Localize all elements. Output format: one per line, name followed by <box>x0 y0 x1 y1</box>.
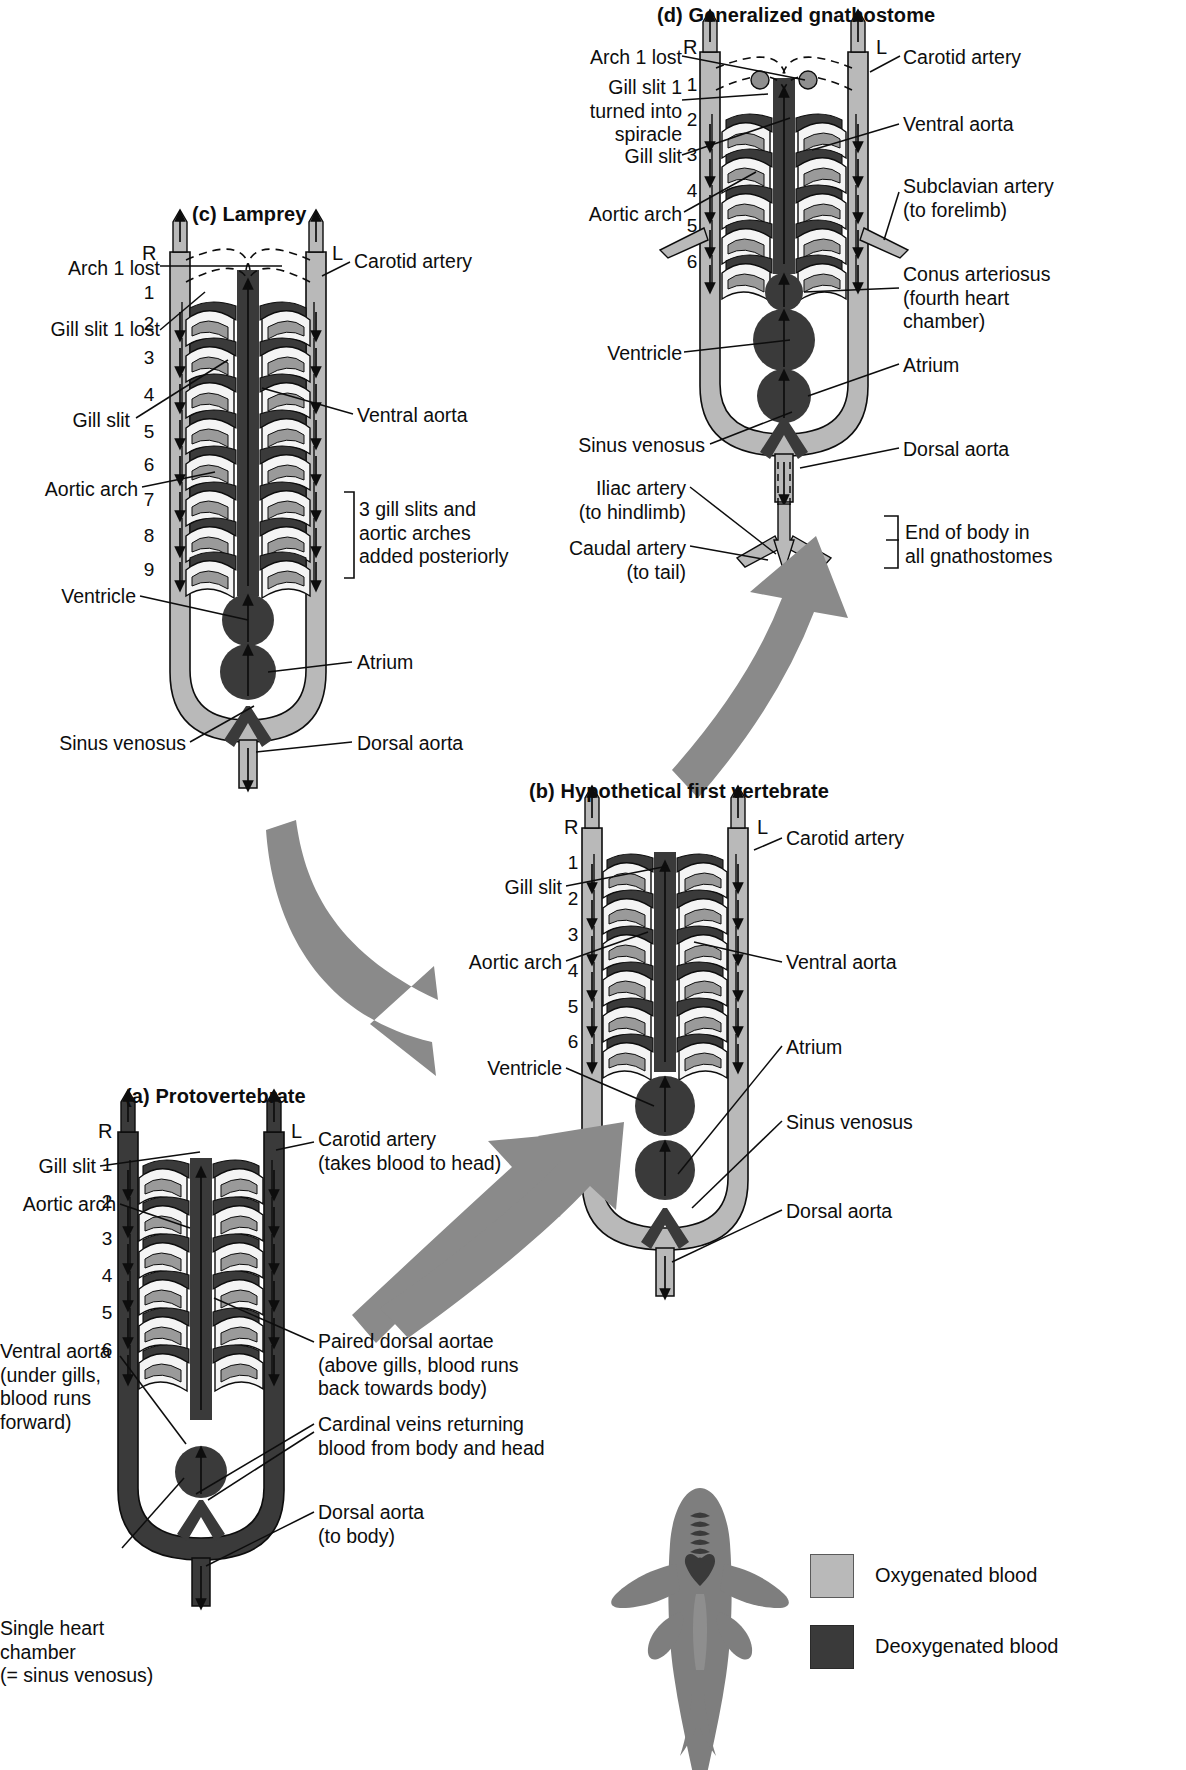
panel-c-label-ventricle: Ventricle <box>36 585 136 609</box>
panel-d-title: (d) Generalized gnathostome <box>657 4 935 27</box>
legend-label-deoxygenated: Deoxygenated blood <box>875 1634 1058 1658</box>
panel-a-side-left: L <box>291 1121 302 1141</box>
panel-a-arch-num-5: 5 <box>98 1303 116 1322</box>
panel-b-leader-carotid <box>754 838 782 850</box>
panel-c-arch-num-8: 8 <box>140 526 158 545</box>
panel-c-label-gill-slit: Gill slit <box>30 409 130 433</box>
panel-c-label-added-posteriorly: 3 gill slits and aortic arches added pos… <box>359 498 509 569</box>
panel-b-label-sinus-venosus: Sinus venosus <box>786 1111 913 1135</box>
panel-b-side-left: L <box>757 817 768 837</box>
panel-d-label-dorsal-aorta: Dorsal aorta <box>903 438 1009 462</box>
panel-b-arch-num-6: 6 <box>564 1032 582 1051</box>
panel-c-arch-num-2: 2 <box>140 314 158 333</box>
panel-c-arch-num-3: 3 <box>140 348 158 367</box>
panel-c-label-atrium: Atrium <box>357 651 413 675</box>
panel-c-bracket <box>344 492 354 578</box>
panel-a-arch-num-6: 6 <box>98 1340 116 1359</box>
panel-d-arch-num-2: 2 <box>683 110 701 129</box>
panel-d-label-carotid-artery: Carotid artery <box>903 46 1021 70</box>
panel-d-label-atrium: Atrium <box>903 354 959 378</box>
panel-d-arch-num-3: 3 <box>683 145 701 164</box>
panel-b-arch-num-3: 3 <box>564 925 582 944</box>
evolution-arrow-b-to-c <box>266 820 438 1076</box>
panel-c-arch-num-6: 6 <box>140 455 158 474</box>
panel-a-arch-num-1: 1 <box>98 1155 116 1174</box>
panel-d-label-gill-slit: Gill slit <box>580 145 682 169</box>
panel-d-label-aortic-arch: Aortic arch <box>560 203 682 227</box>
panel-c-side-left: L <box>332 243 343 263</box>
panel-d-label-caudal-artery: Caudal artery (to tail) <box>556 537 686 584</box>
panel-c-lost-arch-dashed <box>186 249 250 270</box>
panel-d-label-ventral-aorta: Ventral aorta <box>903 113 1014 137</box>
legend-swatch-deoxygenated <box>810 1625 854 1669</box>
panel-b-label-aortic-arch: Aortic arch <box>440 951 562 975</box>
panel-a-sinus-venosus <box>177 1500 225 1541</box>
panel-d-leader-subclavian <box>884 192 899 240</box>
panel-d-label-iliac-artery: Iliac artery (to hindlimb) <box>556 477 686 524</box>
panel-b-side-right: R <box>564 817 578 837</box>
legend-swatch-oxygenated <box>810 1554 854 1598</box>
panel-c-lost-arch-dashed <box>246 249 310 270</box>
panel-c-label-ventral-aorta: Ventral aorta <box>357 404 468 428</box>
panel-c-label-gill-slit-1-lost: Gill slit 1 lost <box>0 318 160 342</box>
panel-b-label-gill-slit: Gill slit <box>460 876 562 900</box>
panel-d-side-left: L <box>876 37 887 57</box>
panel-d-label-subclavian-artery: Subclavian artery (to forelimb) <box>903 175 1054 222</box>
panel-a-label-dorsal-aorta: Dorsal aorta (to body) <box>318 1501 424 1548</box>
panel-c-label-dorsal-aorta: Dorsal aorta <box>357 732 463 756</box>
panel-a-arch-num-3: 3 <box>98 1229 116 1248</box>
panel-d-lost-arch-dashed <box>782 57 852 78</box>
panel-a-label-single-heart-chamber: Single heart chamber (= sinus venosus) <box>0 1617 155 1688</box>
panel-b-title: (b) Hypothetical first vertebrate <box>529 780 829 803</box>
panel-d-arch-num-1: 1 <box>683 75 701 94</box>
panel-d-label-conus-arteriosus: Conus arteriosus (fourth heart chamber) <box>903 263 1050 334</box>
panel-d-leader-iliac <box>690 487 776 554</box>
panel-a-label-paired-dorsal-aortae: Paired dorsal aortae (above gills, blood… <box>318 1330 519 1401</box>
panel-a-arch-num-2: 2 <box>98 1192 116 1211</box>
panel-b-label-atrium: Atrium <box>786 1036 842 1060</box>
panel-d-end-of-body-bracket <box>884 516 898 568</box>
fish-inset <box>611 1488 789 1770</box>
panel-d-label-end-of-body: End of body in all gnathostomes <box>905 521 1052 568</box>
panel-b-label-dorsal-aorta: Dorsal aorta <box>786 1200 892 1224</box>
panel-c-arch-num-9: 9 <box>140 560 158 579</box>
panel-c-label-carotid-artery: Carotid artery <box>354 250 472 274</box>
fish-part <box>693 1594 707 1670</box>
panel-a-title: (a) Protovertebrate <box>125 1085 306 1108</box>
panel-a-label-carotid-artery: Carotid artery (takes blood to head) <box>318 1128 501 1175</box>
panel-c-leader-dorsalaorta <box>256 742 352 752</box>
panel-a-label-cardinal-veins: Cardinal veins returning blood from body… <box>318 1413 545 1460</box>
panel-b-arch-num-2: 2 <box>564 889 582 908</box>
evolution-arrow-b-to-d <box>672 536 848 798</box>
panel-c-label-aortic-arch: Aortic arch <box>18 478 138 502</box>
panel-c-arch-num-7: 7 <box>140 490 158 509</box>
panel-b-label-carotid-artery: Carotid artery <box>786 827 904 851</box>
panel-d-side-right: R <box>683 37 697 57</box>
panel-b-arch-num-4: 4 <box>564 961 582 980</box>
panel-d-label-arch-1-lost: Arch 1 lost <box>560 46 682 70</box>
panel-d-arch-num-5: 5 <box>683 216 701 235</box>
panel-c-label-arch-1-lost: Arch 1 lost <box>38 257 160 281</box>
panel-a-side-right: R <box>98 1121 112 1141</box>
panel-c-label-sinus-venosus: Sinus venosus <box>36 732 186 756</box>
panel-d-arch-num-6: 6 <box>683 252 701 271</box>
panel-d-leader-carotid <box>870 56 900 72</box>
panel-b-arch-num-5: 5 <box>564 997 582 1016</box>
panel-c-arch-num-1: 1 <box>140 283 158 302</box>
panel-d-arch-num-4: 4 <box>683 181 701 200</box>
panel-d-label-ventricle: Ventricle <box>580 342 682 366</box>
panel-a-arch-num-4: 4 <box>98 1266 116 1285</box>
panel-c-arch-num-5: 5 <box>140 422 158 441</box>
legend-label-oxygenated: Oxygenated blood <box>875 1563 1037 1587</box>
panel-b-arch-num-1: 1 <box>564 853 582 872</box>
panel-c-arch-num-4: 4 <box>140 385 158 404</box>
panel-d-spiracle <box>751 71 769 89</box>
panel-a-label-gill-slit: Gill slit <box>0 1155 96 1179</box>
panel-d-label-spiracle: Gill slit 1 turned into spiracle <box>540 76 682 147</box>
panel-b-label-ventricle: Ventricle <box>460 1057 562 1081</box>
panel-d-label-sinus-venosus: Sinus venosus <box>560 434 705 458</box>
panel-b-label-ventral-aorta: Ventral aorta <box>786 951 897 975</box>
